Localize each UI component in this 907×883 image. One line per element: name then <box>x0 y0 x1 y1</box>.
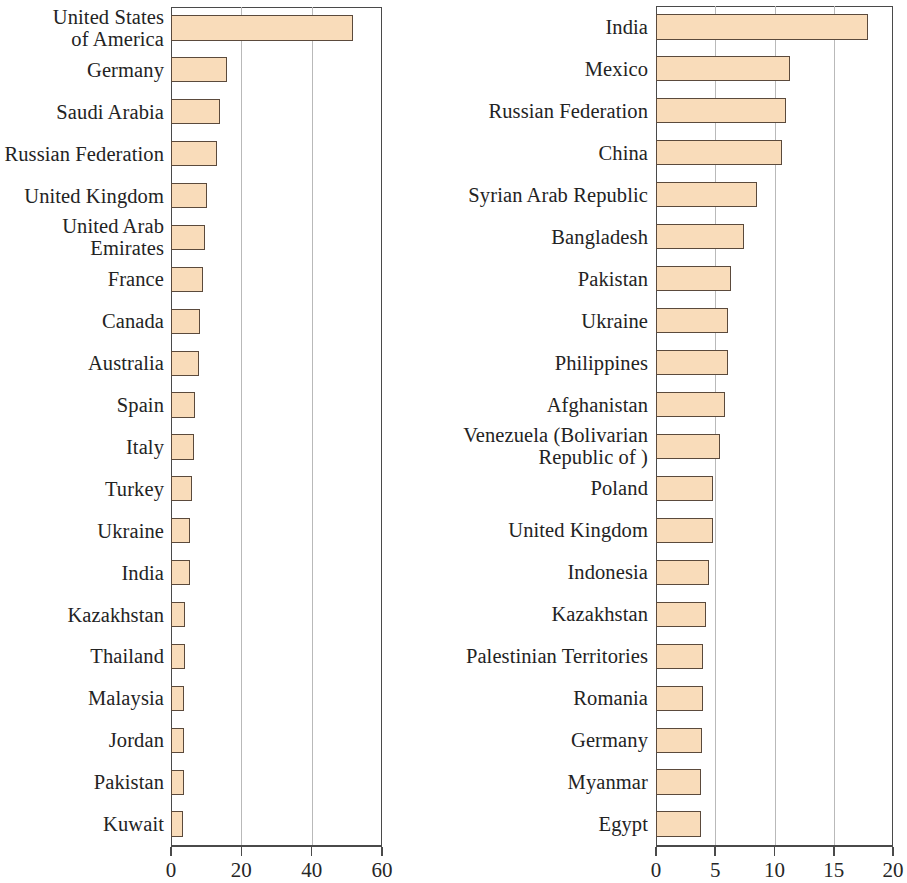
category-label: Poland <box>455 477 648 499</box>
bar <box>171 351 199 376</box>
x-axis-tick <box>714 847 716 856</box>
x-axis-tick <box>833 847 835 856</box>
category-label: Turkey <box>2 478 164 500</box>
gridline <box>241 7 242 845</box>
x-axis-tick-label: 0 <box>651 858 662 883</box>
x-axis-line <box>171 845 382 847</box>
category-label: Italy <box>2 436 164 458</box>
bar <box>171 602 185 627</box>
bar <box>656 518 713 543</box>
category-label: Bangladesh <box>455 226 648 248</box>
bar <box>171 770 184 795</box>
x-axis-tick-label: 10 <box>764 858 785 883</box>
gridline <box>775 6 776 845</box>
bar <box>656 224 744 249</box>
category-label: Ukraine <box>455 310 648 332</box>
category-label: Ukraine <box>2 520 164 542</box>
bar <box>171 518 190 543</box>
category-label: China <box>455 142 648 164</box>
category-label: Venezuela (Bolivarian Republic of ) <box>455 424 648 468</box>
bar <box>171 686 184 711</box>
x-axis-tick-label: 0 <box>166 858 177 883</box>
gridline <box>834 6 835 845</box>
category-label: Palestinian Territories <box>455 645 648 667</box>
bar <box>171 57 227 82</box>
bar <box>656 308 728 333</box>
bar <box>171 392 195 417</box>
bar <box>656 392 725 417</box>
bar <box>656 350 728 375</box>
category-label: Russian Federation <box>2 143 164 165</box>
category-label: Romania <box>455 687 648 709</box>
x-axis-tick <box>774 847 776 856</box>
bar <box>656 686 703 711</box>
category-label: United Kingdom <box>455 519 648 541</box>
category-label: Philippines <box>455 352 648 374</box>
bar <box>171 560 190 585</box>
bar <box>656 769 701 794</box>
bar <box>171 728 184 753</box>
chart-panel-right: 05101520IndiaMexicoRussian FederationChi… <box>453 0 907 883</box>
bar <box>656 182 757 207</box>
bar <box>656 476 713 501</box>
category-label: Kuwait <box>2 813 164 835</box>
category-label: Australia <box>2 352 164 374</box>
category-label: Germany <box>455 729 648 751</box>
bar <box>171 141 217 166</box>
category-label: United Arab Emirates <box>2 215 164 259</box>
category-label: Canada <box>2 310 164 332</box>
bar <box>171 644 185 669</box>
category-label: India <box>2 562 164 584</box>
x-axis-tick <box>655 847 657 856</box>
x-axis-tick-label: 20 <box>883 858 904 883</box>
category-label: Indonesia <box>455 561 648 583</box>
x-axis-tick <box>892 847 894 856</box>
category-label: Saudi Arabia <box>2 101 164 123</box>
category-label: Kazakhstan <box>2 604 164 626</box>
bar <box>171 15 353 40</box>
x-axis-tick-label: 15 <box>823 858 844 883</box>
x-axis-tick-label: 60 <box>372 858 393 883</box>
category-label: Syrian Arab Republic <box>455 184 648 206</box>
bar <box>171 225 205 250</box>
gridline <box>312 7 313 845</box>
category-label: Mexico <box>455 58 648 80</box>
category-label: France <box>2 268 164 290</box>
category-label: Thailand <box>2 645 164 667</box>
x-axis-tick <box>311 847 313 856</box>
bar <box>171 476 192 501</box>
category-label: Spain <box>2 394 164 416</box>
bar <box>171 309 200 334</box>
category-label: India <box>455 16 648 38</box>
bar <box>656 14 868 39</box>
plot-frame <box>171 7 382 845</box>
x-axis-tick-label: 20 <box>231 858 252 883</box>
bar <box>656 56 790 81</box>
x-axis-tick <box>170 847 172 856</box>
bar <box>171 811 183 836</box>
category-label: Malaysia <box>2 687 164 709</box>
bar <box>656 602 706 627</box>
category-label: Kazakhstan <box>455 603 648 625</box>
x-axis-tick <box>381 847 383 856</box>
category-label: Egypt <box>455 813 648 835</box>
gridline <box>715 6 716 845</box>
bar <box>656 811 701 836</box>
bar <box>171 434 194 459</box>
bar <box>656 140 782 165</box>
bar <box>171 99 220 124</box>
bar <box>656 266 731 291</box>
bar <box>656 98 786 123</box>
bar <box>171 267 203 292</box>
two-panel-bar-chart-figure: 0204060United States of AmericaGermanySa… <box>0 0 907 883</box>
category-label: United Kingdom <box>2 185 164 207</box>
category-label: Pakistan <box>455 268 648 290</box>
x-axis-tick-label: 40 <box>301 858 322 883</box>
bar <box>656 728 702 753</box>
bar <box>656 560 709 585</box>
bar <box>656 644 703 669</box>
category-label: Jordan <box>2 729 164 751</box>
bar <box>171 183 207 208</box>
x-axis-tick <box>241 847 243 856</box>
category-label: Myanmar <box>455 771 648 793</box>
